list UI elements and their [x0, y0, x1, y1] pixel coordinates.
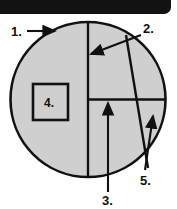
- label-1-text: 1.: [11, 24, 22, 39]
- label-5-text: 5.: [140, 173, 151, 188]
- top-black-bar-rect: [0, 0, 171, 14]
- label-3-text: 3.: [102, 193, 113, 208]
- circle-diagram: 4. 1. 2. 3. 5.: [0, 0, 177, 209]
- callout-square: 4.: [33, 84, 68, 120]
- top-black-bar: [0, 0, 171, 14]
- label-2-text: 2.: [143, 21, 154, 36]
- figure-root: 4. 1. 2. 3. 5.: [0, 0, 177, 209]
- label-4-text: 4.: [44, 96, 54, 110]
